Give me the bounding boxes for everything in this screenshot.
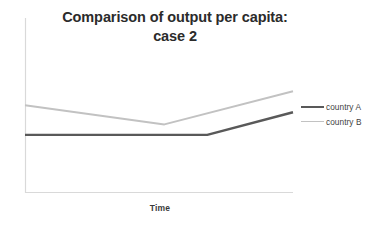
legend-entry-country-b[interactable]: country B [301,114,362,129]
chart-container: Comparison of output per capita: case 2 … [0,0,388,229]
legend-entry-country-a[interactable]: country A [301,99,362,114]
series-line-country-b [25,91,293,124]
x-axis-title: Time [120,203,200,213]
legend-swatch-icon-country-a [301,106,324,108]
legend-swatch-icon-country-b [301,121,324,122]
legend-label-country-a: country A [326,102,361,112]
legend-label-country-b: country B [326,117,362,127]
chart-legend: country A country B [301,99,362,129]
